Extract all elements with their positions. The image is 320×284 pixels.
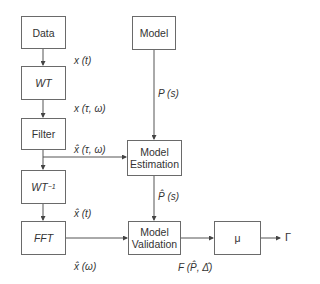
- fft-label: FFT: [34, 232, 53, 244]
- label-xhat-omega: x̂ (ω): [74, 261, 96, 272]
- mu-block: μ: [214, 221, 261, 255]
- label-xhat-tau-omega: x̂ (τ, ω): [74, 144, 106, 155]
- inverse-superscript: −1: [48, 181, 56, 193]
- inverse-wt-label: WT: [31, 181, 47, 193]
- inverse-wt-block: WT−1: [21, 170, 66, 204]
- model-block: Model: [132, 16, 176, 50]
- label-x-t: x (t): [74, 55, 91, 66]
- filter-label: Filter: [32, 128, 55, 140]
- label-gamma-output: Γ: [285, 231, 291, 243]
- validation-line1: Model: [140, 226, 169, 238]
- estimation-line1: Model: [140, 146, 169, 158]
- label-phat-s: P̂ (s): [158, 191, 179, 202]
- estimation-line2: Estimation: [130, 158, 179, 170]
- model-label: Model: [140, 27, 169, 39]
- data-block: Data: [21, 16, 66, 49]
- data-label: Data: [32, 27, 54, 39]
- label-f-phat-delta: F (P̂, Δ̂): [178, 262, 212, 273]
- wt-block: WT: [21, 66, 66, 100]
- model-estimation-block: Model Estimation: [127, 140, 182, 176]
- label-p-s: P (s): [158, 88, 179, 99]
- filter-block: Filter: [21, 118, 66, 150]
- label-x-tau-omega: x (τ, ω): [74, 103, 106, 114]
- label-xhat-t: x̂ (t): [74, 208, 91, 219]
- mu-label: μ: [234, 232, 240, 244]
- fft-block: FFT: [21, 221, 66, 255]
- model-validation-block: Model Validation: [128, 221, 181, 255]
- validation-line2: Validation: [132, 238, 177, 250]
- wt-label: WT: [35, 77, 51, 89]
